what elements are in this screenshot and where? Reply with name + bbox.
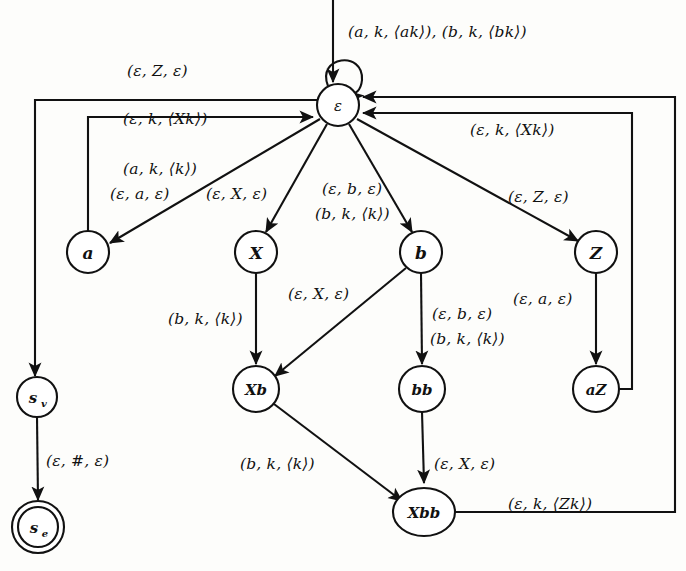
edge-label-eps-to-a-push: (a, k, ⟨k⟩) <box>123 160 197 178</box>
edge-sv-to-se <box>37 417 38 500</box>
edge-label-b-to-bb-push: (b, k, ⟨k⟩) <box>430 330 505 348</box>
edge-label-eps-to-sv: (ε, Z, ε) <box>127 62 188 80</box>
state-aZ-label: aZ <box>586 381 608 399</box>
edge-label-eps-to-b-pop: (ε, b, ε) <box>322 180 382 198</box>
edge-b-to-bb <box>421 273 422 364</box>
state-se-label: s <box>30 519 39 537</box>
edge-label-Xb-to-Xbb: (b, k, ⟨k⟩) <box>240 455 315 473</box>
edge-label-Z-to-aZ: (ε, a, ε) <box>513 290 572 308</box>
edge-label-aZ-to-eps: (ε, k, ⟨Xk⟩) <box>470 121 554 139</box>
state-bb-label: bb <box>412 381 433 399</box>
state-a-label: a <box>82 243 93 263</box>
edge-label-eps-to-Z: (ε, Z, ε) <box>508 188 569 206</box>
edge-label-eps-to-b-push: (b, k, ⟨k⟩) <box>315 205 390 223</box>
edge-label-Xbb-to-eps: (ε, k, ⟨Zk⟩) <box>508 495 592 513</box>
state-se-accepting[interactable]: s e <box>12 501 64 553</box>
edge-label-eps-self-loop: (a, k, ⟨ak⟩), (b, k, ⟨bk⟩) <box>348 23 527 41</box>
edge-bb-to-Xbb <box>422 412 424 483</box>
state-Xb-label: Xb <box>244 381 267 399</box>
edge-Xb-to-Xbb <box>274 404 402 501</box>
edge-label-bb-to-Xbb: (ε, X, ε) <box>434 455 495 473</box>
state-sv-label: s <box>29 389 38 407</box>
edge-label-a-to-eps: (ε, k, ⟨Xk⟩) <box>123 110 207 128</box>
state-bb[interactable]: bb <box>399 366 445 412</box>
state-Z[interactable]: Z <box>575 231 617 273</box>
edge-a-to-eps <box>88 117 313 231</box>
state-eps-label: ε <box>334 97 342 115</box>
state-aZ[interactable]: aZ <box>573 366 619 412</box>
state-a[interactable]: a <box>67 231 109 273</box>
state-Z-label: Z <box>589 243 603 263</box>
state-b-label: b <box>415 243 427 263</box>
state-b[interactable]: b <box>400 231 442 273</box>
edge-label-sv-to-se: (ε, #, ε) <box>46 452 109 470</box>
automaton-diagram: ε a X b Z Xb bb aZ <box>0 0 686 571</box>
state-sv-sublabel: v <box>41 398 47 409</box>
edge-label-eps-to-X: (ε, X, ε) <box>206 185 267 203</box>
edge-label-b-to-bb-pop: (ε, b, ε) <box>432 305 492 323</box>
state-X-label: X <box>248 243 263 263</box>
state-eps[interactable]: ε <box>317 84 359 126</box>
state-sv[interactable]: s v <box>17 377 57 417</box>
state-Xbb[interactable]: Xbb <box>393 488 455 536</box>
state-Xb[interactable]: Xb <box>233 366 279 412</box>
state-Xbb-label: Xbb <box>407 504 441 522</box>
state-X[interactable]: X <box>235 231 277 273</box>
edge-label-eps-to-a-pop: (ε, a, ε) <box>110 185 169 203</box>
edge-label-b-to-Xb: (ε, X, ε) <box>288 285 349 303</box>
edge-label-X-to-Xb: (b, k, ⟨k⟩) <box>168 310 243 328</box>
edge-eps-to-a <box>110 119 320 243</box>
state-se-sublabel: e <box>42 528 48 539</box>
